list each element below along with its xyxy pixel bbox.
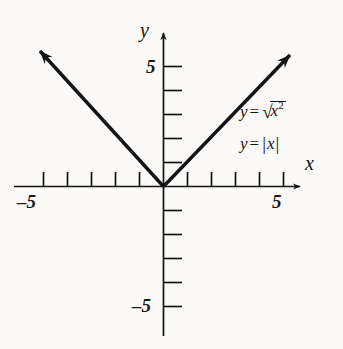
equation-sqrt-lhs: y (240, 102, 248, 121)
equation-abs-operator: = (248, 134, 262, 153)
graph-canvas (0, 0, 343, 349)
x-tick-label-5: 5 (272, 192, 282, 211)
equation-sqrt-operator: = (248, 102, 262, 121)
y-tick-label-minus-5: –5 (132, 296, 151, 315)
y-axis-name: y (140, 20, 149, 40)
abs-argument: x (267, 134, 275, 153)
equation-abs-lhs: y (240, 134, 248, 153)
abs-bar-left: | (261, 133, 267, 154)
radicand-base: x (271, 101, 279, 120)
abs-bar-right: | (275, 133, 281, 154)
x-tick-label-minus-5: –5 (17, 192, 36, 211)
radical-symbol: √x2 (261, 101, 285, 120)
y-tick-label-5: 5 (146, 57, 156, 76)
equation-label-abs: y=|x| (240, 133, 280, 152)
radicand: x2 (270, 101, 286, 119)
equation-label-sqrt: y=√x2 (240, 101, 286, 120)
radicand-exponent: 2 (278, 99, 284, 111)
figure-container: y x 5 –5 5 –5 y=√x2 y=|x| (0, 0, 343, 349)
x-axis-name: x (305, 153, 314, 173)
curve-left-branch (40, 51, 164, 187)
